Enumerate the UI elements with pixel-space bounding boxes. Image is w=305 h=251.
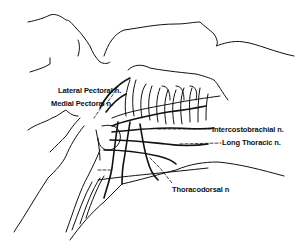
face-line [78,40,80,56]
cheek-line [30,58,50,72]
label-thoracodorsal-nerve: Thoracodorsal n [172,186,229,194]
head-outline [28,14,110,63]
ribs [125,80,208,124]
anatomy-figure: Lateral Pectoral n. Medial Pectoral n. I… [0,0,305,251]
label-intercostobrachial-nerve: Intercostobrachial n. [212,126,284,134]
torso-outline [104,22,294,56]
label-long-thoracic-nerve: Long Thoracic n. [222,139,281,147]
label-lateral-pectoral-nerve: Lateral Pectoral n. [58,87,121,95]
label-medial-pectoral-nerve: Medial Pectoral n. [51,100,113,108]
chest-top [128,65,228,100]
